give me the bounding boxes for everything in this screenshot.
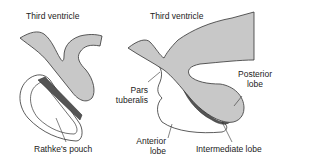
right-third-ventricle-label: Third ventricle <box>150 12 203 22</box>
intermediate-lobe-label: Intermediate lobe <box>196 145 262 155</box>
left-panel <box>20 32 102 142</box>
pars-tuberalis-label-line2: tuberalis <box>106 96 148 106</box>
anterior-lobe-label-line2: lobe <box>120 147 166 157</box>
rathkes-pouch-label: Rathke's pouch <box>34 145 92 155</box>
posterior-lobe-label-line2: lobe <box>230 80 280 90</box>
pars-tuberalis-leader <box>148 72 160 82</box>
left-third-ventricle-label: Third ventricle <box>26 12 79 22</box>
intermediate-lobe-leader <box>222 122 232 142</box>
